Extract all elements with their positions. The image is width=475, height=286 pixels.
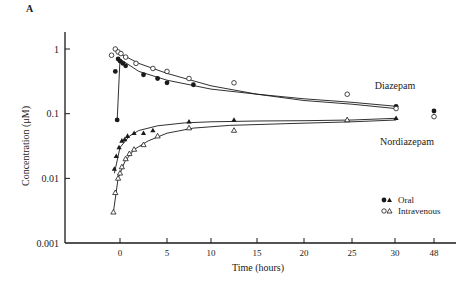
panel-label: A [26,3,34,14]
legend-label-intravenous: Intravenous [398,206,441,216]
y-axis-label: Concentration (μM) [20,106,32,186]
legend: Oral Intravenous [382,195,441,216]
data-point [394,106,399,111]
legend-label-oral: Oral [398,195,414,205]
data-point [123,55,128,60]
concentration-time-chart: A 10.10.010.001 Concentration (μM) 05101… [0,0,475,286]
x-tick-label: 10 [207,248,217,258]
data-point [115,118,120,123]
data-point [119,51,124,56]
data-point [231,117,236,122]
annotation-nordiazepam: Nordiazepam [380,136,434,147]
data-point [232,81,237,86]
data-point [117,170,122,175]
data-point [165,69,170,74]
x-tick-label: 20 [300,248,310,258]
data-point [109,53,114,58]
x-tick-label: 30 [391,248,401,258]
legend-entry-oral: Oral [382,195,415,205]
fit-curves [113,49,396,212]
y-tick-label: 0.001 [37,238,60,249]
y-axis: 10.10.010.001 Concentration (μM) [20,32,70,249]
x-tick-label: 5 [165,248,170,258]
x-axis: 05101520253048 Time (hours) [65,238,456,274]
legend-entry-intravenous: Intravenous [382,206,441,216]
x-axis-label: Time (hours) [232,262,284,274]
x-tick-label: 0 [118,248,123,258]
data-point [393,115,398,120]
data-point [186,119,191,124]
data-point [191,82,196,87]
data-point [432,109,437,114]
fit-curve [117,59,396,120]
data-point [111,209,116,214]
data-point [141,72,146,77]
fit-curve [114,118,396,173]
data-points [109,47,436,214]
data-point [165,80,170,85]
data-point [231,128,236,133]
x-tick-label: 25 [348,248,358,258]
data-point [134,61,139,66]
data-point [116,176,121,181]
data-point [151,66,156,71]
x-tick-label: 48 [430,248,440,258]
data-point [141,130,146,135]
x-tick-label: 15 [253,248,263,258]
data-point [345,92,350,97]
data-point [186,125,191,130]
data-point [187,76,192,81]
y-tick-label: 1 [54,44,59,55]
data-point [132,147,137,152]
data-point [432,114,437,119]
data-point [113,190,118,195]
y-tick-label: 0.1 [47,108,60,119]
y-tick-label: 0.01 [42,173,60,184]
data-point [155,133,160,138]
data-point [113,69,118,74]
data-point [123,63,128,68]
data-point [155,76,160,81]
data-point [345,117,350,122]
annotation-diazepam: Diazepam [375,80,416,91]
data-point [150,128,155,133]
fit-curve [113,120,396,212]
